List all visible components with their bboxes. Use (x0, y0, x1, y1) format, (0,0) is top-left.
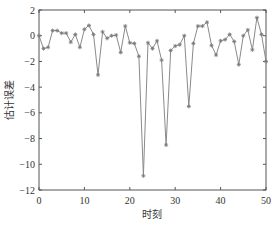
x-tick-label: 40 (216, 195, 226, 206)
data-point-marker (169, 49, 173, 53)
axis-ticks (39, 10, 266, 190)
x-tick-label: 50 (261, 195, 271, 206)
data-point-marker (228, 32, 232, 36)
data-point-marker (182, 34, 186, 38)
x-tick-label: 10 (79, 195, 89, 206)
y-tick-label: −2 (24, 56, 35, 67)
data-point-marker (51, 29, 55, 33)
data-point-marker (119, 50, 123, 54)
data-point-marker (205, 20, 209, 24)
y-tick-label: 2 (30, 5, 35, 16)
data-point-marker (73, 32, 77, 36)
data-point-marker (255, 16, 259, 20)
data-point-marker (246, 28, 250, 32)
data-point-marker (232, 40, 236, 44)
data-point-marker (64, 31, 68, 35)
data-point-marker (137, 54, 141, 58)
data-point-marker (114, 33, 118, 37)
data-point-marker (151, 47, 155, 51)
data-point-marker (42, 47, 46, 51)
data-point-marker (187, 104, 191, 108)
plot-frame (39, 10, 266, 190)
data-point-marker (160, 58, 164, 62)
x-tick-labels: 01020304050 (37, 195, 272, 206)
y-tick-label: −10 (19, 159, 35, 170)
data-point-marker (96, 73, 100, 77)
data-point-marker (37, 34, 41, 38)
data-point-marker (250, 48, 254, 52)
data-point-marker (78, 45, 82, 49)
data-point-marker (259, 32, 263, 36)
data-point-marker (55, 29, 59, 33)
line-chart: 01020304050 20−2−4−6−8−10−12 时刻 估计误差 (0, 0, 272, 230)
y-tick-label: 0 (30, 30, 35, 41)
axes-box (39, 10, 266, 190)
data-point-marker (210, 43, 214, 47)
data-point-marker (164, 143, 168, 147)
data-point-marker (241, 34, 245, 38)
x-tick-label: 20 (125, 195, 135, 206)
data-point-marker (60, 31, 64, 35)
y-axis-label: 估计误差 (3, 80, 15, 120)
data-point-marker (82, 27, 86, 31)
data-point-marker (223, 38, 227, 42)
data-line (39, 18, 266, 176)
x-tick-label: 0 (37, 195, 42, 206)
y-tick-label: −4 (24, 82, 35, 93)
data-point-marker (237, 63, 241, 67)
y-tick-label: −6 (24, 107, 35, 118)
data-point-marker (146, 41, 150, 45)
data-point-marker (141, 174, 145, 178)
y-tick-labels: 20−2−4−6−8−10−12 (19, 5, 35, 196)
data-point-marker (178, 43, 182, 47)
data-point-marker (200, 24, 204, 28)
data-point-marker (173, 44, 177, 48)
data-point-marker (69, 40, 73, 44)
data-point-marker (128, 41, 132, 45)
data-point-marker (87, 23, 91, 27)
data-point-marker (123, 24, 127, 28)
data-point-marker (191, 41, 195, 45)
data-point-marker (196, 24, 200, 28)
data-point-marker (110, 34, 114, 38)
data-point-marker (132, 41, 136, 45)
x-tick-label: 30 (170, 195, 180, 206)
data-point-marker (91, 32, 95, 36)
data-point-marker (219, 39, 223, 43)
x-axis-label: 时刻 (142, 208, 162, 220)
y-tick-label: −8 (24, 133, 35, 144)
data-point-marker (264, 59, 268, 63)
data-point-marker (46, 45, 50, 49)
y-tick-label: −12 (19, 185, 35, 196)
data-point-marker (214, 53, 218, 57)
series-line (39, 18, 266, 176)
